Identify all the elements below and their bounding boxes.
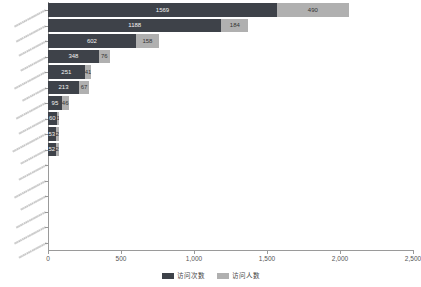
bar-segment-visits: 1569 <box>48 3 277 17</box>
bar-row: 5321 <box>48 126 413 142</box>
bar-segment-visitors: 76 <box>99 50 110 64</box>
bar-row: 6017 <box>48 111 413 127</box>
bar-segment-visits: 52 <box>48 143 56 157</box>
bar-segment-visitors: 41 <box>85 65 91 79</box>
x-axis-tick <box>413 250 414 254</box>
bar-segment-visitors: 490 <box>277 3 349 17</box>
bar-row <box>48 219 413 235</box>
bar-value-label: 17 <box>57 115 59 122</box>
bar-row <box>48 204 413 220</box>
y-axis-tick <box>45 181 48 182</box>
bar-value-label: 1569 <box>48 6 277 13</box>
bar-segment-visits: 602 <box>48 34 136 48</box>
legend-label: 访问人数 <box>232 272 260 280</box>
y-axis-tick <box>45 165 48 166</box>
bar-row: 9546 <box>48 95 413 111</box>
bar-value-label: 21 <box>56 130 59 137</box>
y-axis-tick <box>45 196 48 197</box>
bar-row: 34876 <box>48 49 413 65</box>
legend-swatch-icon <box>217 273 229 279</box>
bar-value-label: 60 <box>48 115 57 122</box>
bar-segment-visitors: 46 <box>62 96 69 110</box>
bar-row: 602158 <box>48 33 413 49</box>
bar-value-label: 184 <box>221 22 248 29</box>
bar-segment-visits: 60 <box>48 112 57 126</box>
bar-row <box>48 235 413 251</box>
bar-row: 5223 <box>48 142 413 158</box>
bar-segment-visitors: 184 <box>221 19 248 33</box>
bar-segment-visits: 53 <box>48 127 56 141</box>
bar-row: 1569490 <box>48 2 413 18</box>
bar-segment-visits: 251 <box>48 65 85 79</box>
legend-swatch-icon <box>162 273 174 279</box>
bar-row <box>48 188 413 204</box>
legend-item[interactable]: 访问人数 <box>217 272 260 280</box>
x-axis-tick <box>48 250 49 254</box>
x-axis-tick-label: 2,000 <box>332 255 348 263</box>
x-axis-tick-label: 1,000 <box>186 255 202 263</box>
bar-row: 21367 <box>48 80 413 96</box>
bar-segment-visitors: 67 <box>79 81 89 95</box>
bar-value-label: 67 <box>79 84 89 91</box>
y-axis-labels: xxxxxxxxxxxxxxxxxxxxxxxxxxxxxxxxxxxxxxxx… <box>0 0 48 252</box>
x-axis-line <box>48 250 413 251</box>
x-axis-tick <box>194 250 195 254</box>
bar-chart: xxxxxxxxxxxxxxxxxxxxxxxxxxxxxxxxxxxxxxxx… <box>0 0 421 287</box>
bar-segment-visits: 95 <box>48 96 62 110</box>
plot-area: 1569490118818460215834876251412136795466… <box>48 2 413 250</box>
bar-value-label: 348 <box>48 53 99 60</box>
bar-value-label: 76 <box>99 53 110 60</box>
y-axis-tick <box>45 212 48 213</box>
bar-value-label: 52 <box>48 146 56 153</box>
bar-value-label: 251 <box>48 68 85 75</box>
legend-item[interactable]: 访问次数 <box>162 272 205 280</box>
x-axis-tick-label: 1,500 <box>259 255 275 263</box>
bar-row <box>48 157 413 173</box>
bar-value-label: 53 <box>48 130 56 137</box>
bar-row: 25141 <box>48 64 413 80</box>
x-axis-tick <box>121 250 122 254</box>
bar-value-label: 41 <box>85 68 91 75</box>
bar-segment-visits: 348 <box>48 50 99 64</box>
bar-value-label: 46 <box>62 99 69 106</box>
y-axis-tick <box>45 243 48 244</box>
y-axis-tick <box>45 227 48 228</box>
bar-row <box>48 173 413 189</box>
bar-value-label: 213 <box>48 84 79 91</box>
chart-legend: 访问次数访问人数 <box>0 272 421 280</box>
bar-value-label: 602 <box>48 37 136 44</box>
y-axis-category-label: xxxxxxxxxxxxxxx <box>17 240 47 259</box>
bar-segment-visitors: 23 <box>56 143 59 157</box>
bar-value-label: 1188 <box>48 22 221 29</box>
x-axis-tick <box>267 250 268 254</box>
bar-row: 1188184 <box>48 18 413 34</box>
legend-label: 访问次数 <box>177 272 205 280</box>
bar-segment-visitors: 158 <box>136 34 159 48</box>
bar-segment-visits: 1188 <box>48 19 221 33</box>
bar-segment-visitors: 17 <box>57 112 59 126</box>
bar-value-label: 490 <box>277 6 349 13</box>
x-axis-tick-label: 500 <box>116 255 127 263</box>
bar-value-label: 158 <box>136 37 159 44</box>
bar-value-label: 23 <box>56 146 59 153</box>
bar-segment-visits: 213 <box>48 81 79 95</box>
x-axis-tick-label: 0 <box>46 255 50 263</box>
bar-segment-visitors: 21 <box>56 127 59 141</box>
bar-value-label: 95 <box>48 99 62 106</box>
x-axis-tick-label: 2,500 <box>405 255 421 263</box>
x-axis-tick <box>340 250 341 254</box>
